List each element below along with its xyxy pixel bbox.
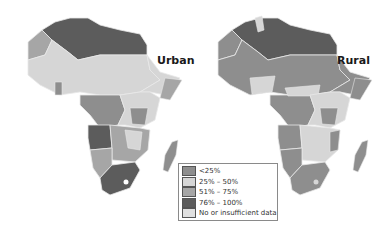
legend-label: No or insufficient data <box>199 209 277 217</box>
legend-swatch <box>182 166 196 176</box>
urban-map-title: Urban <box>157 54 195 67</box>
urban-map: Urban <box>0 0 190 233</box>
africa-urban-map-graphic <box>0 0 190 233</box>
legend-label: 76% – 100% <box>199 199 243 207</box>
legend-item-76-100: 76% – 100% <box>182 198 274 209</box>
legend-swatch <box>182 187 196 197</box>
legend-swatch <box>182 198 196 208</box>
legend-item-lt25: <25% <box>182 166 274 177</box>
map-legend: <25% 25% – 50% 51% – 75% 76% – 100% No o… <box>178 163 278 221</box>
legend-swatch <box>182 177 196 187</box>
legend-item-25-50: 25% – 50% <box>182 177 274 188</box>
legend-label: 51% – 75% <box>199 188 238 196</box>
legend-item-no-data: No or insufficient data <box>182 208 274 219</box>
legend-swatch <box>182 208 196 218</box>
legend-label: 25% – 50% <box>199 178 238 186</box>
rural-map-title: Rural <box>337 54 370 67</box>
legend-item-51-75: 51% – 75% <box>182 187 274 198</box>
legend-label: <25% <box>199 167 220 175</box>
